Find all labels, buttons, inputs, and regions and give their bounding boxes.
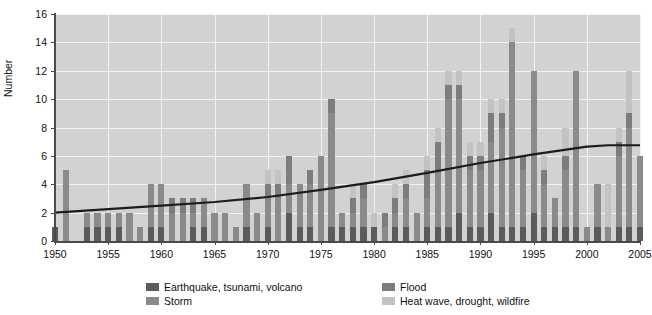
bar-segment (148, 184, 154, 227)
bar-column (318, 156, 324, 241)
bar-segment (350, 184, 356, 198)
bar-segment (616, 227, 622, 241)
bar-segment (190, 213, 196, 227)
gridline-horizontal (55, 14, 640, 15)
bar-column (360, 184, 366, 241)
bar-segment (445, 71, 451, 85)
bar-column (328, 99, 334, 241)
bar-column (105, 213, 111, 241)
bar-segment (605, 227, 611, 241)
bar-column (116, 213, 122, 241)
gridline-vertical (587, 14, 588, 241)
bar-segment (328, 99, 334, 113)
legend-item[interactable]: Heat wave, drought, wildfire (382, 295, 530, 307)
bar-column (243, 184, 249, 241)
bar-column (477, 142, 483, 241)
bar-segment (488, 99, 494, 113)
bar-segment (350, 227, 356, 241)
bar-column (499, 99, 505, 241)
x-axis-tick-mark (108, 241, 109, 245)
bar-segment (509, 227, 515, 241)
bar-segment (116, 213, 122, 227)
bar-segment (190, 227, 196, 241)
bar-segment (456, 71, 462, 85)
bar-segment (403, 170, 409, 184)
x-axis-tick-label: 1990 (460, 248, 500, 260)
bar-segment (424, 170, 430, 198)
bar-column (233, 227, 239, 241)
bar-segment (531, 213, 537, 241)
y-axis-tick-label: 14 (25, 37, 47, 47)
bar-segment (126, 213, 132, 241)
bar-segment (456, 85, 462, 99)
bar-segment (499, 113, 505, 127)
x-axis-tick-label: 1975 (301, 248, 341, 260)
chart-root: Number 0246810121416 1950195519601965197… (0, 0, 652, 315)
bar-segment (605, 184, 611, 227)
bar-segment (94, 227, 100, 241)
y-axis-tick-mark (51, 128, 55, 129)
legend-item[interactable]: Earthquake, tsunami, volcano (146, 281, 302, 293)
legend-label: Flood (400, 281, 426, 293)
bar-segment (626, 128, 632, 227)
legend-label: Storm (164, 295, 192, 307)
bar-segment (499, 99, 505, 113)
bar-column (169, 198, 175, 241)
bar-column (84, 213, 90, 241)
bar-segment (265, 227, 271, 241)
bar-segment (265, 170, 271, 184)
bar-segment (424, 156, 430, 170)
bar-segment (552, 227, 558, 241)
bar-segment (265, 184, 271, 198)
bar-segment (509, 28, 515, 42)
y-axis-tick-label: 12 (25, 66, 47, 76)
bar-column (339, 213, 345, 241)
bar-segment (339, 213, 345, 227)
bar-segment (445, 99, 451, 227)
gridline-vertical (374, 14, 375, 241)
bar-column (222, 213, 228, 241)
bar-column (286, 156, 292, 241)
bar-segment (584, 227, 590, 241)
bar-column (148, 184, 154, 241)
bar-segment (286, 156, 292, 184)
bar-segment (94, 213, 100, 227)
bar-segment (350, 198, 356, 212)
bar-column (637, 156, 643, 241)
bar-segment (169, 213, 175, 241)
x-axis-tick-mark (215, 241, 216, 245)
x-axis-tick-mark (587, 241, 588, 245)
bar-segment (339, 227, 345, 241)
legend-item[interactable]: Flood (382, 281, 426, 293)
bar-segment (435, 227, 441, 241)
bar-segment (201, 198, 207, 226)
bar-segment (254, 213, 260, 241)
bar-segment (392, 213, 398, 227)
bar-segment (541, 184, 547, 227)
bar-column (520, 156, 526, 241)
plot-area (55, 14, 640, 241)
bar-segment (371, 227, 377, 241)
bar-column (382, 213, 388, 241)
bar-column (435, 128, 441, 242)
bar-segment (180, 213, 186, 241)
bar-segment (243, 184, 249, 227)
bar-segment (435, 128, 441, 142)
gridline-horizontal (55, 128, 640, 129)
bar-segment (626, 71, 632, 114)
x-axis-tick-label: 2005 (620, 248, 652, 260)
bar-column (265, 170, 271, 241)
x-axis-tick-mark (55, 241, 56, 245)
legend-item[interactable]: Storm (146, 295, 192, 307)
bar-segment (350, 213, 356, 227)
bar-segment (148, 227, 154, 241)
bar-segment (520, 156, 526, 170)
y-axis-tick-mark (51, 99, 55, 100)
bar-segment (211, 213, 217, 241)
bar-segment (626, 113, 632, 127)
bar-segment (360, 227, 366, 241)
legend-label: Earthquake, tsunami, volcano (164, 281, 302, 293)
bar-column (180, 198, 186, 241)
bar-segment (562, 128, 568, 156)
bar-column (562, 128, 568, 242)
